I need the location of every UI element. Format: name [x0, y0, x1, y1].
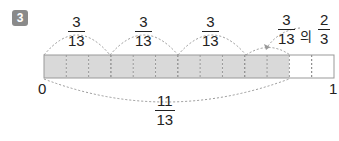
bar-segment	[289, 55, 311, 78]
bar-segment	[312, 55, 334, 78]
bar-segment	[44, 55, 66, 78]
top-fraction-1: 3 13	[68, 14, 85, 49]
axis-start-label: 0	[38, 80, 46, 97]
problem-number-badge: 3	[12, 10, 28, 26]
bar-segment	[133, 55, 155, 78]
axis-end-label: 1	[329, 80, 337, 97]
fraction-diagram: 3 3 13 3 13 3 13 3 13 의 2 3 0 1 11 13	[0, 0, 339, 141]
bar-segment	[111, 55, 133, 78]
top-fraction-3: 3 13	[202, 14, 219, 49]
bar-segments	[44, 55, 334, 78]
particle-label: 의	[300, 26, 312, 45]
bar-segment	[245, 55, 267, 78]
top-fraction-2: 3 13	[135, 14, 152, 49]
arc-4	[246, 48, 290, 56]
bar-segment	[89, 55, 111, 78]
bar-segment	[66, 55, 88, 78]
bar-segment	[267, 55, 289, 78]
bar-segment	[222, 55, 244, 78]
of-fraction: 2 3	[318, 12, 330, 47]
bar-segment	[200, 55, 222, 78]
last-fraction: 3 13	[278, 12, 295, 47]
bar-segment	[178, 55, 200, 78]
bar-segment	[156, 55, 178, 78]
bottom-fraction: 11 13	[155, 93, 175, 128]
